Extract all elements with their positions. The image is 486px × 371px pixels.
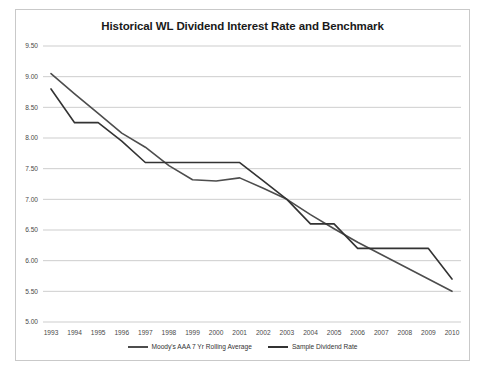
x-axis-tick-label: 2008: [397, 329, 412, 336]
x-axis-tick-label: 2000: [209, 329, 224, 336]
series-line-2: [51, 89, 452, 279]
x-axis-tick-label: 2006: [350, 329, 365, 336]
legend-label: Moody's AAA 7 Yr Rolling Average: [152, 343, 252, 350]
legend-entry-1[interactable]: Moody's AAA 7 Yr Rolling Average: [128, 343, 252, 350]
x-axis-tick-label: 1996: [114, 329, 129, 336]
x-axis-tick-label: 1993: [44, 329, 59, 336]
line-chart-plot: 9.509.008.508.007.507.006.506.005.505.00…: [16, 10, 469, 360]
legend-label: Sample Dividend Rate: [292, 343, 358, 350]
x-axis-tick-label: 2010: [445, 329, 460, 336]
x-axis-tick-label: 2004: [303, 329, 318, 336]
x-axis-tick-label: 1997: [138, 329, 153, 336]
y-axis-tick-label: 9.50: [25, 42, 38, 49]
y-axis-tick-labels: 9.509.008.508.007.507.006.506.005.505.00: [25, 42, 38, 325]
x-axis-tick-label: 2001: [232, 329, 247, 336]
y-axis-tick-label: 9.00: [25, 73, 38, 80]
x-axis-tick-label: 2005: [327, 329, 342, 336]
legend-swatch-icon: [128, 346, 148, 348]
series-line-1: [51, 74, 452, 292]
y-axis-tick-label: 8.00: [25, 134, 38, 141]
x-axis-tick-label: 1995: [91, 329, 106, 336]
y-axis-tick-label: 5.00: [25, 318, 38, 325]
x-axis-tick-labels: 1993199419951996199719981999200020012002…: [44, 329, 460, 336]
x-axis-tick-label: 2007: [374, 329, 389, 336]
y-axis-tick-label: 8.50: [25, 104, 38, 111]
legend-entry-2[interactable]: Sample Dividend Rate: [268, 343, 358, 350]
y-axis-tick-label: 7.00: [25, 196, 38, 203]
y-axis-tick-label: 6.00: [25, 257, 38, 264]
y-axis-tick-label: 5.50: [25, 288, 38, 295]
y-axis-tick-label: 6.50: [25, 226, 38, 233]
chart-frame: Historical WL Dividend Interest Rate and…: [15, 9, 470, 361]
x-axis-tick-label: 1998: [162, 329, 177, 336]
data-series-group: [51, 74, 452, 292]
x-axis-tick-label: 1994: [67, 329, 82, 336]
y-axis-tick-label: 7.50: [25, 165, 38, 172]
x-axis-tick-label: 1999: [185, 329, 200, 336]
legend-swatch-icon: [268, 346, 288, 348]
x-axis-tick-label: 2009: [421, 329, 436, 336]
chart-legend: Moody's AAA 7 Yr Rolling AverageSample D…: [16, 343, 469, 350]
x-axis-tick-label: 2002: [256, 329, 271, 336]
x-axis-tick-label: 2003: [280, 329, 295, 336]
